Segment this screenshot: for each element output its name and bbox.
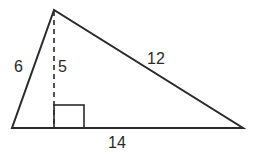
triangle-diagram: 6 5 12 14 [0,0,253,154]
triangle-figure [0,0,253,154]
right-side-length-label: 12 [147,51,165,67]
triangle-outline [12,10,243,128]
left-side-length-label: 6 [14,59,23,75]
right-angle-marker [54,105,84,128]
height-length-label: 5 [58,59,67,75]
base-length-label: 14 [108,135,126,151]
